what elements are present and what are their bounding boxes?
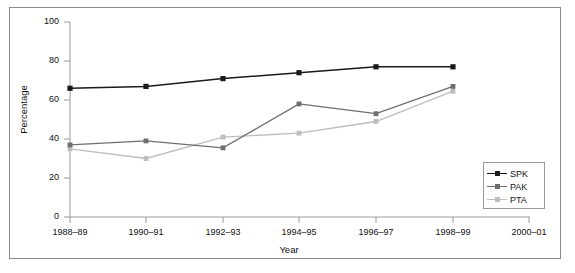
- chart-legend: SPK PAK PTA: [483, 162, 545, 209]
- x-tick-label-1994-95: 1994–95: [264, 227, 334, 237]
- chart-figure: 100 80 60 40 20 0 1988–89 1990–91 1992–9…: [0, 0, 575, 273]
- y-tick-label-60: 60: [29, 94, 59, 104]
- x-tick-label-1996-97: 1996–97: [341, 227, 411, 237]
- legend-item-spk[interactable]: SPK: [487, 167, 541, 180]
- y-tick-label-0: 0: [29, 211, 59, 221]
- x-axis-title: Year: [229, 244, 349, 255]
- legend-marker-spk-icon: [487, 169, 507, 179]
- x-tick-label-1998-99: 1998–99: [418, 227, 488, 237]
- x-tick-label-1990-91: 1990–91: [111, 227, 181, 237]
- legend-label-pak: PAK: [507, 181, 527, 193]
- y-tick-label-100: 100: [29, 16, 59, 26]
- legend-item-pak[interactable]: PAK: [487, 180, 541, 193]
- x-axis-ticks: [70, 217, 529, 223]
- legend-marker-pak-icon: [487, 182, 507, 192]
- legend-label-pta: PTA: [507, 194, 527, 206]
- legend-item-pta[interactable]: PTA: [487, 193, 541, 206]
- series-line-pak: [68, 84, 456, 150]
- legend-label-spk: SPK: [507, 168, 528, 180]
- y-axis-title: Percentage: [18, 65, 29, 155]
- y-axis-ticks: [64, 22, 70, 217]
- x-tick-label-1988-89: 1988–89: [35, 227, 105, 237]
- y-tick-label-40: 40: [29, 133, 59, 143]
- series-line-spk: [67, 64, 455, 91]
- y-tick-label-20: 20: [29, 172, 59, 182]
- legend-marker-pta-icon: [487, 195, 507, 205]
- y-tick-label-80: 80: [29, 55, 59, 65]
- x-tick-label-2000-01: 2000–01: [494, 227, 564, 237]
- x-tick-label-1992-93: 1992–93: [188, 227, 258, 237]
